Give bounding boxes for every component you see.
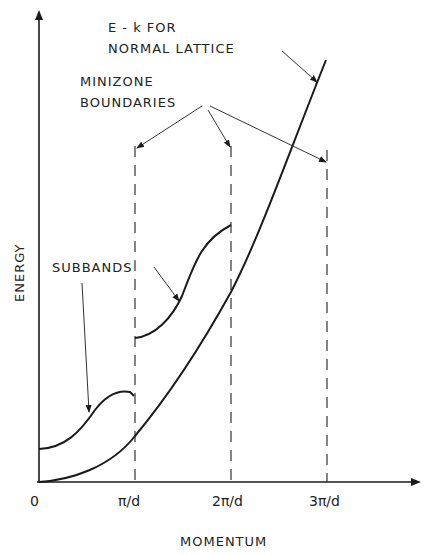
x-axis-label: MOMENTUM [180,534,267,549]
subband-2-curve [135,225,231,338]
subbands-leader-2 [154,267,179,301]
minizone-leader-2 [208,110,230,147]
tick-pi-d: π/d [118,493,140,509]
tick-0: 0 [30,493,39,509]
energy-momentum-diagram: E - k FOR NORMAL LATTICE MINIZONE BOUNDA… [0,0,427,555]
tick-2pi-d: 2π/d [212,493,243,509]
subbands-leader-1 [82,283,89,412]
ek-leader [282,51,317,82]
y-axis-arrow-icon [35,10,43,20]
tick-3pi-d: 3π/d [309,493,340,509]
minizone-leader-3 [210,106,326,162]
y-axis-label: ENERGY [12,243,27,302]
ek-label-line1: E - k FOR [108,20,177,35]
ek-label-line2: NORMAL LATTICE [108,41,235,56]
subband-1-curve [39,391,134,449]
x-axis-arrow-icon [411,478,421,486]
minizone-leader-1 [137,106,202,148]
minizone-label-line2: BOUNDARIES [80,95,176,110]
minizone-label-line1: MINIZONE [80,74,154,89]
subbands-label: SUBBANDS [52,260,132,275]
